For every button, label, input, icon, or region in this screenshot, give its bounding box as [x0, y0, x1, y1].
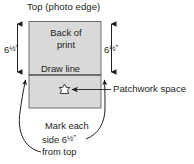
patchwork-space-label: Patchwork space: [113, 84, 186, 95]
right-dimension-unit: ”: [116, 43, 119, 52]
photo-marking-diagram: Top (photo edge) 6½” 6½” Back of print D…: [0, 0, 194, 164]
back-of-print-line-1: Back of: [46, 28, 86, 39]
left-dimension-label: 6½”: [4, 44, 18, 55]
page-title: Top (photo edge): [27, 2, 100, 13]
bottom-note-line-3: from top: [42, 147, 76, 158]
bottom-note-line-1: Mark each: [45, 121, 89, 132]
back-of-print-line-2: print: [46, 40, 86, 51]
right-dimension-label: 6½”: [104, 44, 118, 55]
bottom-note-prefix: side 6: [42, 134, 67, 145]
bottom-note-unit: ”: [73, 133, 76, 142]
bottom-note-line-2: side 6½”: [42, 134, 76, 145]
draw-line-label: Draw line: [41, 64, 80, 75]
left-dimension-unit: ”: [16, 43, 19, 52]
diagram-graphics-layer: [0, 0, 194, 164]
